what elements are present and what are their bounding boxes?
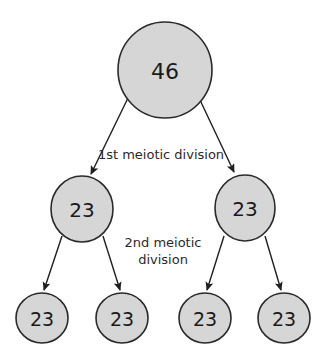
node-middle-right: 23 xyxy=(215,175,275,241)
caption-first-division: 1st meiotic division xyxy=(98,147,224,162)
node-bottom-1: 23 xyxy=(16,293,68,343)
arrow-middle-left-to-bottom-2 xyxy=(103,236,120,290)
node-parent-label: 46 xyxy=(151,59,179,84)
caption-second-division-line1: 2nd meiotic xyxy=(125,235,202,250)
arrow-middle-left-to-bottom-1 xyxy=(44,236,62,290)
arrow-middle-right-to-bottom-4 xyxy=(265,236,281,290)
node-middle-left: 23 xyxy=(51,176,113,242)
node-middle-right-label: 23 xyxy=(232,197,257,221)
node-bottom-3: 23 xyxy=(179,293,231,343)
node-parent: 46 xyxy=(118,22,212,118)
arrow-parent-to-middle-left xyxy=(91,98,128,174)
node-bottom-2-label: 23 xyxy=(110,308,134,330)
arrow-middle-right-to-bottom-3 xyxy=(207,236,224,290)
node-bottom-2: 23 xyxy=(96,293,148,343)
caption-second-division-line2: division xyxy=(138,252,188,267)
node-bottom-4: 23 xyxy=(258,293,310,343)
meiosis-diagram: 46 23 23 23 23 23 23 1st meiotic divisio… xyxy=(0,0,325,362)
node-bottom-3-label: 23 xyxy=(193,308,217,330)
node-bottom-1-label: 23 xyxy=(30,308,54,330)
node-bottom-4-label: 23 xyxy=(272,308,296,330)
node-middle-left-label: 23 xyxy=(69,198,94,222)
